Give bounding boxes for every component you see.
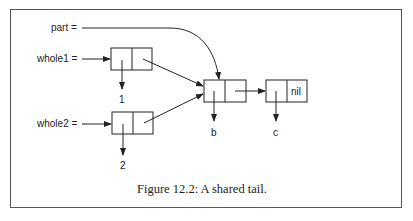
- figure-caption: Figure 12.2: A shared tail.: [137, 182, 267, 196]
- cons-cell-whole1: [111, 48, 152, 70]
- value-nil: nil: [291, 86, 301, 97]
- label-part: part =: [51, 22, 77, 33]
- whole1-cdr-arrow: [143, 59, 203, 86]
- cons-cell-whole2: [112, 112, 153, 134]
- shared-tail-diagram: part = whole1 = 1 whole2 = 2 b nil c Fig…: [0, 0, 413, 221]
- label-whole2: whole2 =: [36, 118, 77, 129]
- whole2-cdr-arrow: [144, 94, 203, 123]
- value-2: 2: [120, 160, 126, 171]
- part-pointer-arrow: [82, 28, 219, 79]
- value-b: b: [211, 127, 217, 138]
- value-1: 1: [119, 94, 125, 105]
- value-c: c: [273, 127, 278, 138]
- label-whole1: whole1 =: [36, 53, 77, 64]
